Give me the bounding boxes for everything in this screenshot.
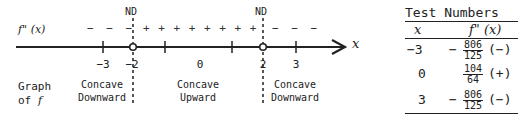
tick-label-0: 0 — [190, 58, 210, 71]
fraction-denominator: 125 — [464, 51, 482, 61]
row-fraction: 104 64 — [463, 64, 483, 85]
graph-label-line1: Graph — [18, 80, 51, 94]
tick-label-3: 3 — [286, 58, 306, 71]
region-concave-downward-right: Concave Downward — [265, 78, 325, 104]
fraction-denominator: 125 — [464, 101, 482, 111]
row-x-value: −3 — [407, 42, 423, 57]
f-variable: f — [38, 94, 42, 107]
row-x-value: 0 — [418, 66, 426, 81]
sign-interval-negative-right: − − − — [272, 22, 320, 35]
row-fraction: 806 125 — [463, 40, 483, 61]
row-sign: (+) — [488, 66, 511, 81]
sign-interval-negative-left: − − − — [87, 22, 135, 35]
nd-label-right: ND — [255, 6, 267, 17]
second-derivative-label: f" (x) — [18, 23, 45, 36]
row-fraction: 806 125 — [463, 90, 483, 111]
region-concave-downward-left: Concave Downward — [72, 78, 132, 104]
region-concave-upward: Concave Upward — [168, 78, 228, 104]
row-sign: (−) — [488, 92, 511, 107]
header-x: x — [414, 22, 421, 37]
row-sign: (−) — [488, 42, 511, 57]
header-underline — [405, 38, 518, 39]
graph-label-line2: of f — [18, 94, 51, 108]
tick-label-2: 2 — [253, 58, 273, 71]
table-bottom-rule — [405, 113, 518, 114]
nd-label-left: ND — [125, 6, 137, 17]
row-neg-sign: − — [449, 42, 457, 57]
table-title: Test Numbers — [405, 5, 499, 20]
row-x-value: 3 — [418, 92, 426, 107]
row-neg-sign: − — [449, 92, 457, 107]
fraction-denominator: 64 — [467, 75, 479, 85]
header-second-derivative: f" (x) — [469, 22, 501, 37]
graph-of-f-label: Graph of f — [18, 80, 51, 108]
sign-interval-positive: + + + + + + + + — [143, 22, 257, 35]
tick-label-neg3: −3 — [93, 58, 113, 71]
tick-label-neg2: −2 — [122, 58, 142, 71]
axis-x-label: x — [352, 36, 359, 51]
